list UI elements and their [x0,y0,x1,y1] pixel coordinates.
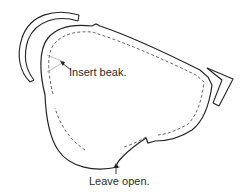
tail-chevron [207,68,233,106]
leave-open-leader [114,163,119,174]
insert-beak-leader [47,55,71,72]
leave-open-label: Leave open. [89,176,150,187]
diagram-svg [0,0,248,196]
insert-beak-label: Insert beak. [69,67,126,78]
body-outline [41,24,212,169]
seam-line [49,32,204,150]
sewing-diagram: Insert beak. Leave open. [0,0,248,196]
